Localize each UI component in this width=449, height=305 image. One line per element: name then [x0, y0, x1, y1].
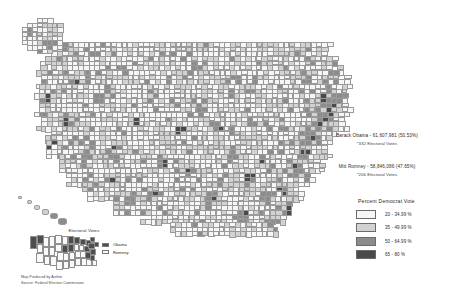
map-credit: Map Produced by Author Source: Federal E…: [21, 274, 84, 287]
county-polygon: [58, 218, 67, 225]
county-polygon: [42, 209, 49, 215]
legend-title: Percent Democrat Vote: [358, 198, 444, 204]
electoral-inset-title: Electoral Votes: [28, 228, 140, 233]
legend-row: 20 - 34.99 %: [356, 208, 444, 220]
electoral-swatch: [102, 243, 109, 247]
legend-swatch: [356, 223, 376, 232]
legend-swatch: [356, 250, 376, 259]
county-polygon: [47, 49, 53, 54]
county-polygon: [298, 196, 304, 202]
democrat-candidate-line: Barack Obama - 61,607,981 (50.53%): [314, 132, 440, 141]
democrat-result-block: Barack Obama - 61,607,981 (50.53%) *332 …: [314, 132, 440, 146]
electoral-legend-row: Romney: [102, 250, 129, 255]
legend-label: 50 - 64.99 %: [385, 239, 412, 244]
electoral-state-polygon: [92, 260, 97, 266]
map-legend: Percent Democrat Vote 20 - 34.99 % 35 - …: [356, 198, 444, 262]
county-polygon: [280, 219, 286, 225]
electoral-legend-row: Obama: [102, 242, 129, 247]
county-polygon: [304, 182, 311, 187]
electoral-state-polygon: [30, 236, 37, 249]
republican-candidate-line: Mitt Romney - 58,846,086 (47.65%): [314, 163, 440, 172]
legend-swatch: [356, 210, 376, 219]
county-polygon: [27, 200, 32, 204]
electoral-state-polygon: [56, 261, 63, 270]
legend-label: 20 - 34.99 %: [385, 212, 412, 217]
credit-source: Source: Federal Election Commission: [21, 280, 84, 286]
county-polygon: [347, 84, 353, 89]
county-polygon: [50, 213, 58, 219]
county-polygon: [344, 126, 351, 132]
legend-row: 50 - 64.99 %: [356, 235, 444, 247]
electoral-legend-label: Obama: [113, 242, 127, 247]
electoral-state-polygon: [36, 253, 44, 263]
electoral-state-polygon: [55, 235, 62, 244]
election-choropleth-map: Barack Obama - 61,607,981 (50.53%) *332 …: [0, 0, 449, 305]
legend-label: 65 - 80 %: [385, 252, 405, 257]
county-polygon: [18, 196, 22, 199]
legend-swatch: [356, 237, 376, 246]
county-polygon: [286, 210, 292, 217]
republican-electoral-line: *206 Electoral Votes: [314, 172, 440, 177]
county-polygon: [46, 154, 52, 160]
legend-row: 65 - 80 %: [356, 249, 444, 261]
electoral-votes-inset: Electoral Votes Obama Romney: [28, 228, 140, 276]
county-polygon: [34, 205, 40, 210]
electoral-inset-legend: Obama Romney: [102, 242, 129, 257]
county-polygon: [327, 154, 333, 159]
republican-result-block: Mitt Romney - 58,846,086 (47.65%) *206 E…: [314, 163, 440, 177]
electoral-state-polygon: [55, 244, 62, 252]
electoral-swatch: [102, 250, 109, 254]
democrat-electoral-line: *332 Electoral Votes: [314, 141, 440, 146]
legend-row: 35 - 49.99 %: [356, 222, 444, 234]
electoral-inset-map: [30, 234, 100, 272]
legend-label: 35 - 49.99 %: [385, 225, 412, 230]
county-polygon: [57, 45, 63, 51]
electoral-legend-label: Romney: [113, 250, 129, 255]
county-polygon: [273, 231, 279, 238]
